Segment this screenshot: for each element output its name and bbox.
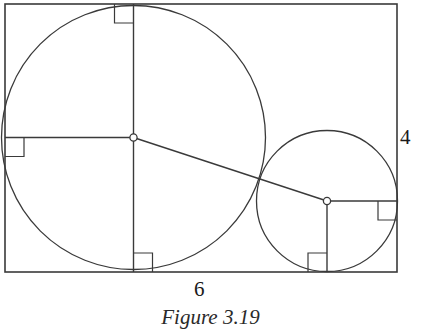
right-angle-mark-right-small: [378, 201, 397, 220]
large-circle-center-marker: [130, 134, 137, 141]
width-dimension-label: 6: [194, 279, 205, 300]
right-angle-mark-left: [5, 138, 24, 157]
height-dimension-label: 4: [400, 127, 411, 148]
center-to-center-segment: [134, 138, 328, 202]
small-circle-center-marker: [323, 197, 330, 204]
figure-caption: Figure 3.19: [0, 306, 421, 329]
